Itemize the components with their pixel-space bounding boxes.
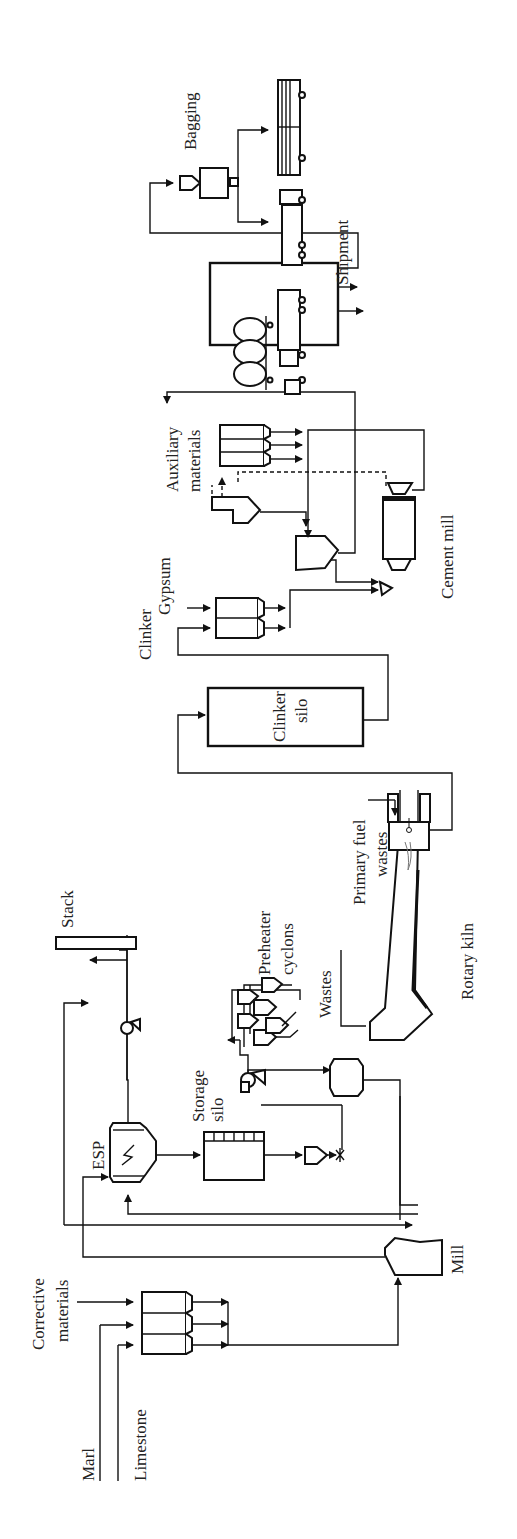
preheater-label-1: Preheater [255, 910, 274, 975]
raw-material-hoppers [142, 1278, 398, 1354]
storage-silo-label-2: silo [208, 1097, 227, 1122]
corrective-label-1: Corrective [29, 1278, 48, 1350]
clinker-gypsum-bins: Clinker Gypsum [136, 557, 378, 660]
corrective-label-2: materials [53, 1280, 72, 1342]
preheater-cyclones: Preheater cyclons [228, 910, 300, 1072]
stack: Stack [56, 890, 136, 949]
storage-silo-label-1: Storage [189, 1070, 208, 1122]
shipment-label: Shipment [333, 220, 352, 285]
clinker-label: Clinker [136, 609, 155, 660]
esp-label: ESP [89, 1141, 108, 1170]
bulk-truck [278, 290, 305, 394]
preheater-label-2: cyclons [278, 923, 297, 975]
esp-fan [121, 1019, 140, 1034]
raw-mill: Mill [385, 1238, 467, 1275]
mill-label: Mill [448, 1244, 467, 1274]
kiln-feed-bin [330, 1059, 363, 1096]
esp: ESP [89, 1123, 156, 1182]
cement-silo [210, 263, 338, 345]
separator [296, 536, 338, 570]
primary-fuel-label-2: wastes [372, 832, 391, 877]
marl-label: Marl [79, 1448, 98, 1481]
clinker-silo: Clinker silo [208, 688, 363, 746]
cement-mill: Cement mill [380, 483, 457, 599]
stack-label: Stack [58, 890, 77, 928]
bagging-label: Bagging [181, 92, 200, 150]
bagging: Bagging [180, 92, 238, 198]
rail-wagon [278, 80, 305, 175]
auxiliary-label-1: Auxiliary [163, 426, 182, 492]
cement-mill-label: Cement mill [438, 514, 457, 599]
flatbed-truck [280, 190, 305, 265]
gypsum-label: Gypsum [155, 557, 174, 615]
storage-silo: Storage silo [189, 1070, 264, 1180]
wastes-label: Wastes [316, 970, 335, 1018]
preheater-fan [241, 1070, 265, 1092]
dust-filter [212, 472, 386, 523]
auxiliary-label-2: materials [185, 430, 204, 492]
primary-fuel-label-1: Primary fuel [350, 819, 369, 905]
clinker-silo-label-2: silo [292, 698, 311, 723]
clinker-silo-label-1: Clinker [270, 691, 289, 742]
limestone-label: Limestone [131, 1409, 150, 1481]
rotary-kiln-label: Rotary kiln [458, 923, 477, 1000]
rotary-kiln: Rotary kiln [370, 790, 477, 1040]
auxiliary-materials-bins: Auxiliary materials [163, 425, 302, 492]
cement-process-diagram: Mill ESP Stack Storage silo [0, 0, 517, 1539]
